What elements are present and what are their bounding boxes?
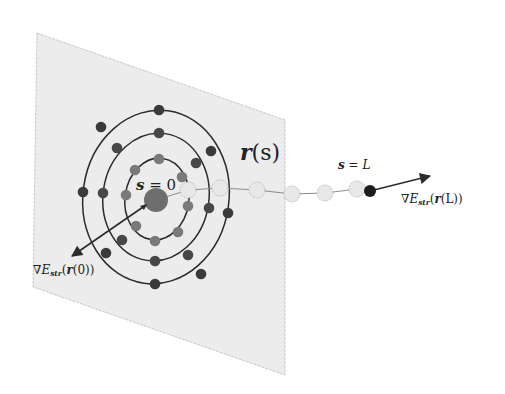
label-rs-s: s: [260, 140, 271, 165]
label-rs-open: (: [252, 140, 261, 165]
chain-bead: [212, 180, 228, 196]
ring-dot-middle: [183, 250, 194, 261]
ring-dot-inner: [173, 227, 184, 238]
ring-dot-outer: [206, 146, 217, 157]
paren-close: ): [90, 263, 95, 277]
ring-dot-middle: [117, 235, 128, 246]
label-s-equals-L: s = L: [338, 158, 370, 172]
ring-dot-middle: [150, 256, 161, 267]
ring-dot-outer: [101, 248, 112, 259]
ring-dot-inner: [130, 165, 141, 176]
paren-close: ): [458, 192, 463, 206]
label-grad-E-start: ∇Estr(r(0)): [33, 263, 94, 278]
ring-dot-middle: [112, 143, 123, 154]
subscript-str: str: [50, 269, 62, 278]
ring-dot-inner: [121, 190, 132, 201]
label-grad-E-end: ∇Estr(r(L)): [401, 192, 463, 207]
ring-dot-inner: [131, 221, 142, 232]
label-s0-eq: =: [144, 176, 166, 194]
ring-dot-outer: [150, 279, 161, 290]
label-s0-val: 0: [167, 176, 177, 194]
label-sL-eq: =: [345, 158, 363, 172]
ring-dot-outer: [223, 208, 234, 219]
end-dot-sL: [364, 185, 376, 197]
argument: (0): [73, 263, 90, 277]
ring-dot-outer: [196, 269, 207, 280]
ring-dot-inner: [150, 236, 161, 247]
ring-dot-outer: [78, 187, 89, 198]
ring-dot-outer: [96, 122, 107, 133]
ring-dot-middle: [204, 203, 215, 214]
ring-dot-inner: [183, 201, 194, 212]
label-sL-val: L: [362, 158, 370, 172]
chain-bead: [180, 182, 196, 198]
chain-bead: [317, 185, 333, 201]
ring-dot-middle: [154, 128, 165, 139]
label-rs-r: r: [240, 139, 252, 165]
label-sL-s: s: [338, 158, 345, 172]
chain-bead: [284, 186, 300, 202]
argument: (L): [441, 192, 458, 206]
ring-dot-outer: [154, 105, 165, 116]
chain-bead: [249, 182, 265, 198]
label-rs-close: ): [271, 140, 280, 165]
gradient-arrow-end: [370, 176, 430, 191]
energy-symbol: E: [41, 263, 50, 277]
ring-dot-middle: [191, 158, 202, 169]
label-r-of-s: r(s): [240, 139, 280, 165]
energy-symbol: E: [409, 192, 418, 206]
ring-dot-inner: [154, 154, 165, 165]
subscript-str: str: [418, 198, 430, 207]
ring-dot-inner: [177, 172, 188, 183]
chain-bead: [349, 181, 365, 197]
label-s-equals-0: s = 0: [136, 176, 176, 194]
ring-dot-middle: [98, 188, 109, 199]
